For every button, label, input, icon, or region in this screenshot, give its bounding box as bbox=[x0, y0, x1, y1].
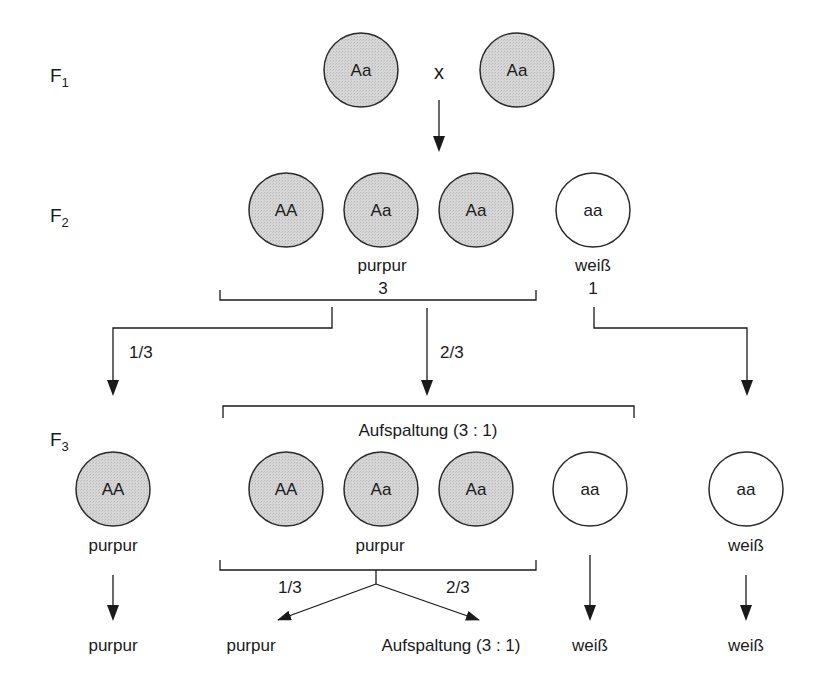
f3-right-plant: aa bbox=[709, 452, 783, 526]
arrowhead-icon bbox=[584, 605, 596, 621]
f1-parent-left: Aa bbox=[324, 33, 398, 107]
genotype-label: Aa bbox=[371, 201, 392, 220]
segregation-label: Aufspaltung (3 : 1) bbox=[359, 421, 498, 440]
arrowhead-icon bbox=[433, 136, 445, 152]
phenotype-label: weiß bbox=[727, 536, 764, 555]
genotype-label: aa bbox=[584, 201, 603, 220]
cross-symbol: x bbox=[434, 61, 444, 83]
generation-label-f3: F3 bbox=[50, 429, 69, 454]
phenotype-label-purple: purpur bbox=[357, 256, 406, 275]
genotype-label: Aa bbox=[466, 480, 487, 499]
arrowhead-icon bbox=[741, 380, 753, 396]
f3-middle-plant-2: Aa bbox=[344, 452, 418, 526]
f3-middle-plant-1: AA bbox=[249, 452, 323, 526]
segregation-bracket bbox=[223, 406, 634, 418]
outcome-label: purpur bbox=[88, 636, 137, 655]
f2-offspring-1: AA bbox=[249, 173, 323, 247]
genotype-label: Aa bbox=[507, 61, 528, 80]
fraction-label: 1/3 bbox=[278, 578, 302, 597]
f3-middle-plant-3: Aa bbox=[439, 452, 513, 526]
f3-left-plant: AA bbox=[76, 452, 150, 526]
f1-parent-right: Aa bbox=[480, 33, 554, 107]
phenotype-label: purpur bbox=[355, 536, 404, 555]
f2-offspring-4: aa bbox=[556, 173, 630, 247]
f2-offspring-3: Aa bbox=[439, 173, 513, 247]
outcome-label: purpur bbox=[226, 636, 275, 655]
genotype-label: AA bbox=[275, 480, 298, 499]
generation-label-f1: F1 bbox=[50, 65, 69, 90]
genotype-label: AA bbox=[275, 201, 298, 220]
phenotype-label-white: weiß bbox=[574, 256, 611, 275]
ratio-label-white: 1 bbox=[588, 279, 597, 298]
outcome-label: weiß bbox=[571, 636, 608, 655]
phenotype-label: purpur bbox=[88, 536, 137, 555]
mendel-f3-diagram: F1 F2 F3 Aa x Aa AA Aa Aa aa purpur weiß… bbox=[0, 0, 817, 690]
genotype-label: Aa bbox=[371, 480, 392, 499]
group-bracket bbox=[220, 560, 536, 570]
f2-offspring-2: Aa bbox=[344, 173, 418, 247]
generation-label-f2: F2 bbox=[50, 205, 69, 230]
arrowhead-icon bbox=[107, 380, 119, 396]
branch-line-right bbox=[594, 307, 747, 392]
arrowhead-icon bbox=[421, 380, 433, 396]
genotype-label: aa bbox=[737, 480, 756, 499]
outcome-label: Aufspaltung (3 : 1) bbox=[382, 636, 521, 655]
arrowhead-icon bbox=[740, 605, 752, 621]
arrowhead-icon bbox=[107, 605, 119, 621]
genotype-label: Aa bbox=[351, 61, 372, 80]
fraction-label: 2/3 bbox=[446, 578, 470, 597]
genotype-label: AA bbox=[102, 480, 125, 499]
genotype-label: aa bbox=[581, 480, 600, 499]
fraction-label: 1/3 bbox=[129, 343, 153, 362]
fraction-label: 2/3 bbox=[440, 343, 464, 362]
ratio-label-purple: 3 bbox=[378, 279, 387, 298]
genotype-label: Aa bbox=[466, 201, 487, 220]
outcome-label: weiß bbox=[727, 636, 764, 655]
f3-middle-plant-4: aa bbox=[553, 452, 627, 526]
